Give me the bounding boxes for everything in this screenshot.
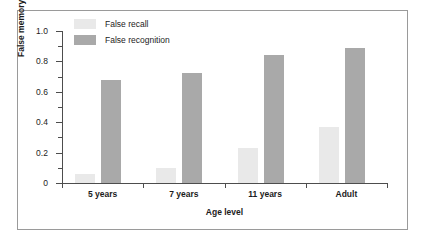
bar-group — [306, 31, 387, 183]
x-axis-title: Age level — [62, 207, 387, 217]
y-tick-label: 0.2 — [36, 148, 48, 158]
bar-false-recognition — [101, 80, 121, 183]
x-tick-label: 5 years — [62, 189, 143, 199]
x-tick-label: 7 years — [143, 189, 224, 199]
bar-false-recognition — [182, 73, 202, 183]
y-tick-label: 0 — [43, 178, 48, 188]
x-tick-label: 11 years — [225, 189, 306, 199]
y-tick-label: 0.4 — [36, 117, 48, 127]
x-tick — [225, 183, 226, 188]
bar-group — [143, 31, 224, 183]
y-axis-title: False memory level — [16, 0, 26, 57]
legend-item-false-recall: False recall — [74, 17, 170, 31]
legend-label-false-recall: False recall — [105, 19, 148, 29]
bar-group — [225, 31, 306, 183]
x-tick — [62, 183, 63, 188]
bar-false-recall — [156, 168, 176, 183]
plot-area: 00.20.40.60.81.0 5 years7 years11 yearsA… — [62, 31, 387, 183]
bar-false-recognition — [264, 55, 284, 183]
bar-false-recall — [238, 148, 258, 183]
bar-false-recall — [319, 127, 339, 183]
bar-false-recognition — [345, 48, 365, 183]
y-tick-label: 0.6 — [36, 87, 48, 97]
legend-swatch-false-recall — [74, 19, 96, 29]
y-tick-label: 0.8 — [36, 56, 48, 66]
y-tick-label: 1.0 — [36, 26, 48, 36]
bar-group — [62, 31, 143, 183]
x-tick-label: Adult — [306, 189, 387, 199]
x-tick — [306, 183, 307, 188]
bar-false-recall — [75, 174, 95, 183]
x-tick — [143, 183, 144, 188]
x-tick — [387, 183, 388, 188]
chart-figure-frame: False recall False recognition False mem… — [17, 10, 408, 230]
